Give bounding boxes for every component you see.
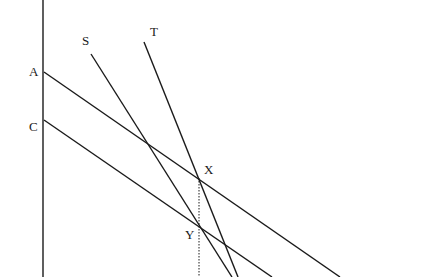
diagram-canvas: A C S T X Y	[0, 0, 442, 277]
line-a	[44, 72, 340, 277]
line-c	[44, 120, 272, 277]
diagram-svg	[0, 0, 442, 277]
label-t: T	[150, 25, 158, 38]
label-s: S	[82, 34, 89, 47]
label-c: C	[29, 120, 38, 133]
label-y: Y	[185, 228, 194, 241]
label-x: X	[204, 163, 213, 176]
label-a: A	[29, 65, 38, 78]
